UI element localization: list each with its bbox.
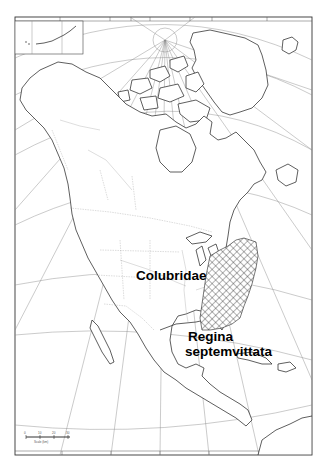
range-map: 0 10 20 30 Scale (km) Colubridae Regina … [0, 0, 326, 472]
newfoundland-outline [276, 164, 298, 186]
greenland-outline [190, 30, 268, 115]
scale-tick-1: 10 [38, 431, 42, 435]
iceland-outline [282, 37, 298, 54]
scale-tick-2: 20 [52, 431, 56, 435]
species-label-genus: Regina [188, 329, 234, 344]
south-america-outline [258, 416, 312, 455]
baja-california-outline [90, 320, 114, 364]
aleutian-inset [15, 21, 83, 54]
north-america-outline [20, 62, 266, 426]
scale-caption: Scale (km) [34, 440, 48, 444]
scale-tick-0: 0 [24, 431, 26, 435]
family-label: Colubridae [136, 268, 207, 283]
scale-tick-3: 30 [66, 431, 70, 435]
species-label-epithet: septemvittata [185, 344, 273, 359]
hispaniola-outline [278, 362, 296, 372]
